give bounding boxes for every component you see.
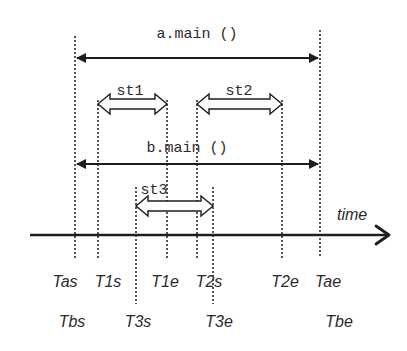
b-main-label: b.main () (146, 140, 227, 157)
label-t2e: T2e (271, 273, 299, 290)
st1-label: st1 (116, 83, 143, 100)
label-t1s: T1s (95, 273, 122, 290)
label-tbe: Tbe (325, 313, 353, 330)
st3-label: st3 (140, 182, 167, 199)
time-axis-label: time (337, 206, 367, 223)
label-t2s: T2s (196, 273, 223, 290)
label-tas: Tas (52, 273, 77, 290)
label-tae: Tae (315, 273, 341, 290)
timeline-diagram: a.main () st1 st2 b.main () st3 time Tas… (0, 0, 407, 351)
label-t3e: T3e (205, 313, 233, 330)
marker-lines (75, 30, 320, 304)
label-tbs: Tbs (59, 313, 86, 330)
marker-labels-row2: Tbs T3s T3e Tbe (59, 313, 353, 330)
label-t3s: T3s (125, 313, 152, 330)
label-t1e: T1e (151, 273, 179, 290)
marker-labels-row1: Tas T1s T1e T2s T2e Tae (52, 273, 341, 290)
st2-label: st2 (225, 83, 252, 100)
a-main-label: a.main () (156, 26, 237, 43)
st3-double-arrow (136, 196, 213, 216)
